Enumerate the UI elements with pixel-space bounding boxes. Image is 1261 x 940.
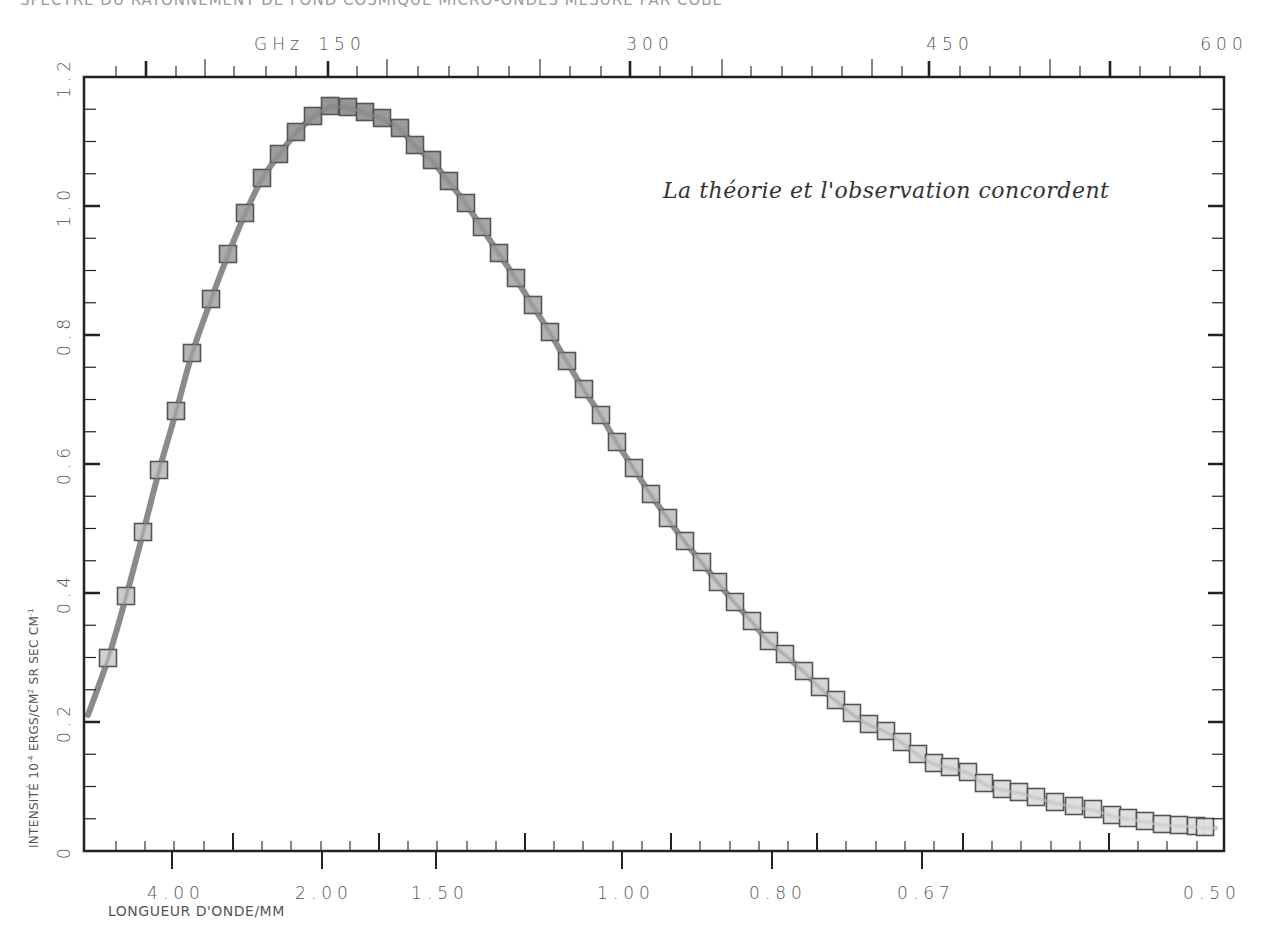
x-bottom-tick-label: 0.80 (749, 883, 807, 903)
axis-tick-labels: 00.20.40.60.81.01.24.002.001.501.000.800… (54, 34, 1248, 903)
x-axis-label: LONGUEUR D'ONDE/MM (108, 903, 285, 919)
ylabel-mid: ERGS/CM (27, 693, 41, 755)
ylabel-suffix: SR SEC CM (27, 616, 41, 689)
x-bottom-tick-label: 2.00 (295, 883, 353, 903)
x-bottom-tick-label: 1.00 (597, 883, 655, 903)
ylabel-prefix: INTENSITÉ 10 (27, 763, 41, 848)
y-tick-label: 1.0 (54, 185, 74, 227)
ylabel-exp3: -1 (27, 608, 35, 616)
x-bottom-tick-label: 0.67 (897, 883, 955, 903)
y-tick-label: 0.8 (54, 314, 74, 356)
x-bottom-tick-label: 4.00 (147, 883, 205, 903)
x-bottom-tick-label: 1.50 (411, 883, 469, 903)
x-top-tick-label: 600 (1200, 34, 1247, 54)
theory-curve (88, 106, 1215, 828)
y-tick-label: 1.2 (54, 56, 74, 98)
x-top-unit-label: GHz (254, 34, 304, 54)
observation-markers (88, 98, 1215, 836)
annotation-text: La théorie et l'observation concordent (663, 178, 1109, 203)
x-top-tick-label: 150 (318, 34, 365, 54)
y-tick-label: 0 (54, 843, 74, 859)
ylabel-exp2: 2 (27, 689, 35, 694)
y-axis-label: INTENSITÉ 10-4 ERGS/CM2 SR SEC CM-1 (27, 608, 41, 848)
plot-area: 00.20.40.60.81.01.24.002.001.501.000.800… (0, 0, 1261, 940)
x-bottom-tick-label: 0.50 (1183, 883, 1241, 903)
x-top-tick-label: 450 (926, 34, 973, 54)
ylabel-exp1: -4 (27, 755, 35, 763)
y-tick-label: 0.6 (54, 443, 74, 485)
y-tick-label: 0.2 (54, 701, 74, 743)
y-tick-label: 0.4 (54, 572, 74, 614)
x-top-tick-label: 300 (626, 34, 673, 54)
